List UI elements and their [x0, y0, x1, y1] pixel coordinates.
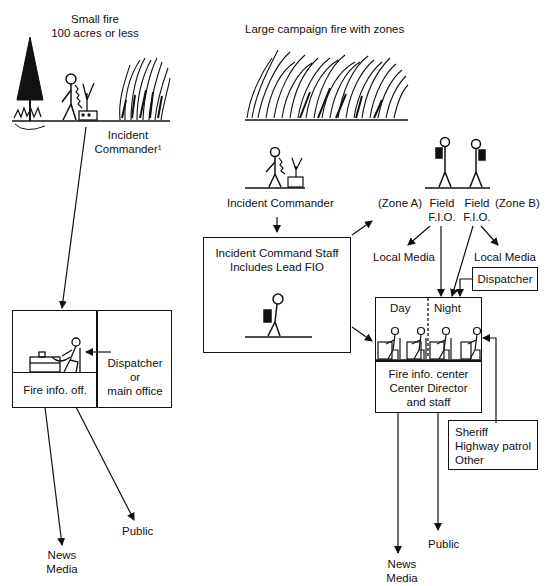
field-fio-a-label: Field F.I.O.	[425, 196, 459, 224]
public-label-right: Public	[428, 537, 459, 551]
day-label: Day	[390, 301, 410, 315]
small-fire-title: Small fire 100 acres or less	[40, 12, 150, 40]
news-media-label-left: News Media	[45, 548, 79, 576]
agencies-label: Sheriff Highway patrol Other	[455, 425, 531, 467]
fire-info-office-label: Fire info. off.	[12, 383, 98, 397]
radio-icon	[79, 83, 97, 120]
incident-command-staff-label: Incident Command Staff Includes Lead FIO	[203, 246, 351, 274]
field-fio-b-label: Field F.I.O.	[460, 196, 494, 224]
dispatcher-label: Dispatcher	[472, 272, 538, 286]
fire-info-center-label: Fire info. center Center Director and st…	[375, 367, 482, 409]
incident-commander-label: Incident Commander¹	[88, 128, 168, 156]
incident-commander-right-label: Incident Commander	[227, 196, 334, 210]
field-fio-figures-icon	[425, 138, 490, 189]
zone-b-label: (Zone B)	[495, 196, 540, 210]
night-label: Night	[434, 301, 461, 315]
incident-commander-figure-right-icon	[245, 148, 305, 189]
local-media-b-label: Local Media	[474, 250, 536, 264]
tree-icon	[14, 37, 45, 130]
center-divider	[375, 360, 482, 362]
small-fire-scene	[12, 37, 170, 130]
large-fire-title: Large campaign fire with zones	[245, 22, 404, 36]
news-media-label-right: News Media	[385, 557, 419, 585]
zone-a-label: (Zone A)	[378, 196, 422, 210]
brush-fire-icon	[120, 58, 170, 120]
public-label-left: Public	[122, 524, 153, 538]
local-media-a-label: Local Media	[373, 250, 435, 264]
large-fire-icon	[245, 50, 408, 120]
dispatcher-main-office-label: Dispatcher or main office	[98, 356, 172, 398]
